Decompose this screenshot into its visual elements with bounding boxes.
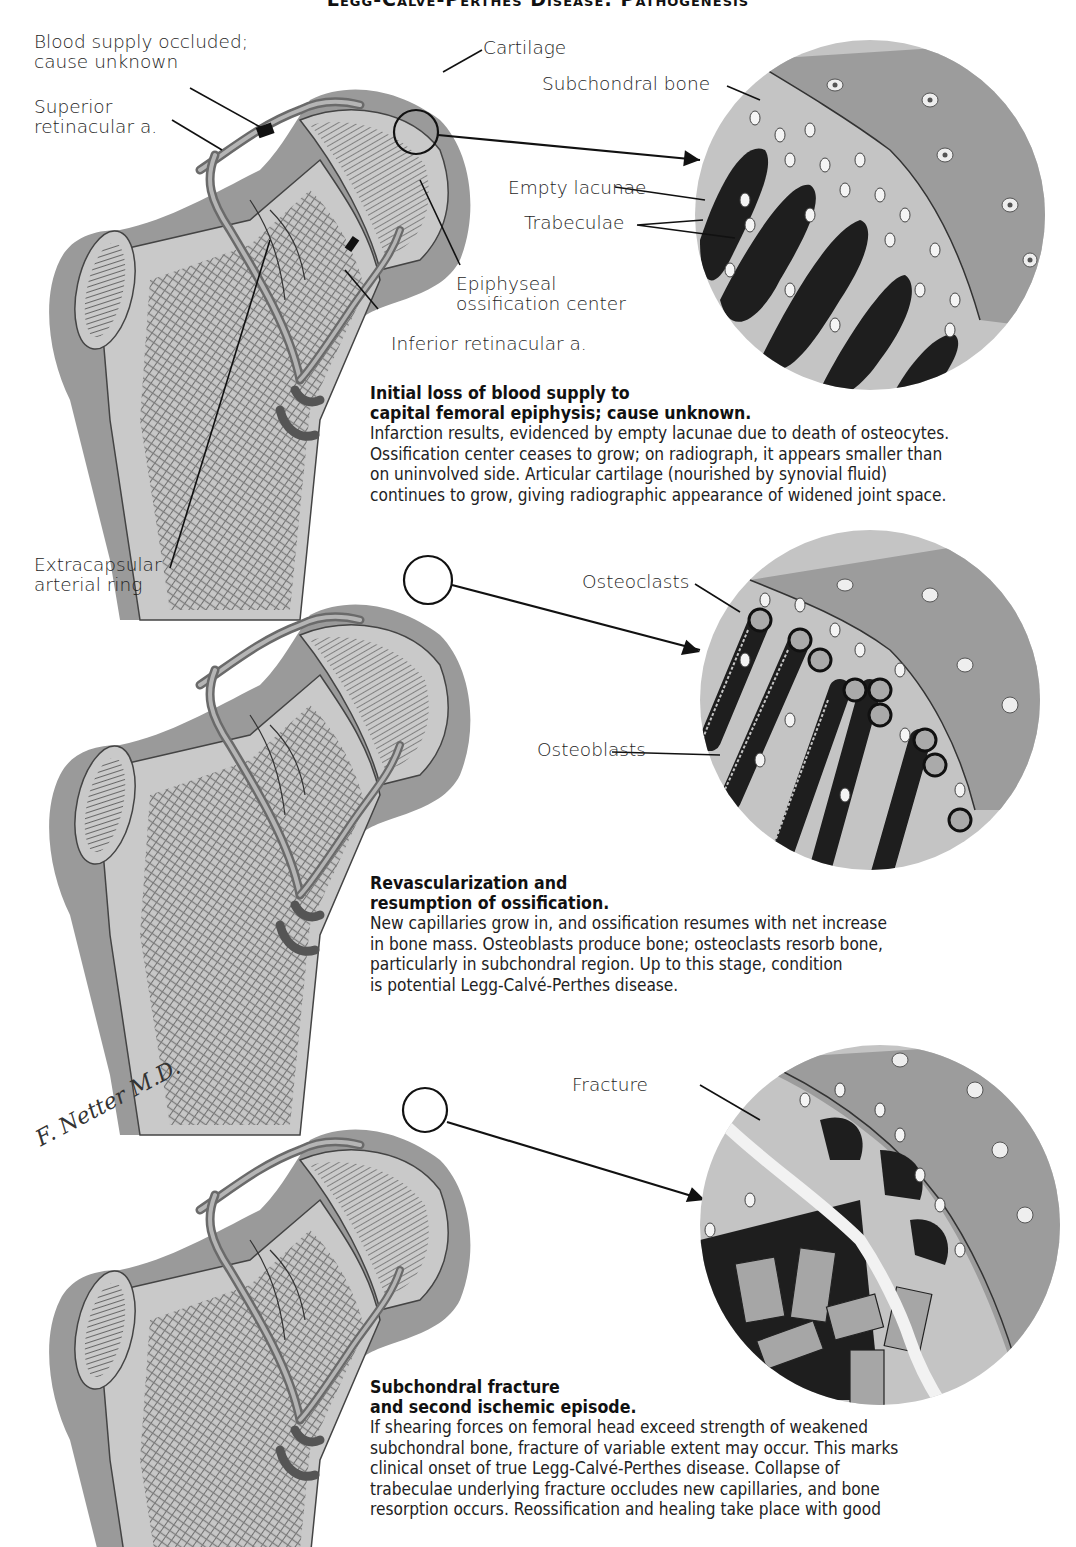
label-line: retinacular a. [34, 117, 157, 137]
label-line: Superior [34, 97, 157, 117]
stage-title-line: Revascularization and [370, 873, 887, 893]
stage-body-line: subchondral bone, fracture of variable e… [370, 1438, 898, 1459]
label-trabeculae: Trabeculae [524, 213, 624, 233]
label-osteoclasts: Osteoclasts [582, 572, 689, 592]
label-fracture: Fracture [572, 1075, 648, 1095]
stage-body-line: clinical onset of true Legg-Calvé-Perthe… [370, 1458, 898, 1479]
stage-body-line: resorption occurs. Reossification and he… [370, 1499, 898, 1520]
label-empty-lacunae: Empty lacunae [508, 178, 646, 198]
stage-1-caption: Initial loss of blood supply to capital … [370, 383, 1028, 505]
stage-title-line: and second ischemic episode. [370, 1397, 898, 1417]
label-line: Blood supply occluded; [34, 32, 248, 52]
stage-body-line: continues to grow, giving radiographic a… [370, 485, 949, 506]
label-inferior-retinacular: Inferior retinacular a. [391, 334, 587, 354]
stage-body-line: in bone mass. Osteoblasts produce bone; … [370, 934, 887, 955]
label-blood-supply-occluded: Blood supply occluded; cause unknown [34, 32, 248, 72]
stage-body-line: trabeculae underlying fracture occludes … [370, 1479, 898, 1500]
stage-body-line: particularly in subchondral region. Up t… [370, 954, 887, 975]
stage-body-line: New capillaries grow in, and ossificatio… [370, 913, 887, 934]
stage-body-line: If shearing forces on femoral head excee… [370, 1417, 898, 1438]
label-osteoblasts: Osteoblasts [537, 740, 646, 760]
stage-2-caption: Revascularization and resumption of ossi… [370, 873, 957, 995]
label-line: cause unknown [34, 52, 248, 72]
stage-body-line: Infarction results, evidenced by empty l… [370, 423, 949, 444]
stage-title-line: Initial loss of blood supply to [370, 383, 949, 403]
label-line: Extracapsular [34, 555, 162, 575]
stage-body-line: is potential Legg-Calvé-Perthes disease. [370, 975, 887, 996]
label-line: Epiphyseal [456, 274, 626, 294]
label-line: ossification center [456, 294, 626, 314]
label-epiphyseal-ossification-center: Epiphyseal ossification center [456, 274, 626, 314]
label-cartilage: Cartilage [483, 38, 566, 58]
stage-title-line: capital femoral epiphysis; cause unknown… [370, 403, 949, 423]
stage-title-line: Subchondral fracture [370, 1377, 898, 1397]
label-subchondral-bone: Subchondral bone [542, 74, 710, 94]
label-extracapsular-arterial-ring: Extracapsular arterial ring [34, 555, 162, 595]
stage-body-line: Ossification center ceases to grow; on r… [370, 444, 949, 465]
stage-3-caption: Subchondral fracture and second ischemic… [370, 1377, 970, 1520]
label-superior-retinacular: Superior retinacular a. [34, 97, 157, 137]
stage-title-line: resumption of ossification. [370, 893, 887, 913]
stage-body-line: on uninvolved side. Articular cartilage … [370, 464, 949, 485]
label-line: arterial ring [34, 575, 162, 595]
